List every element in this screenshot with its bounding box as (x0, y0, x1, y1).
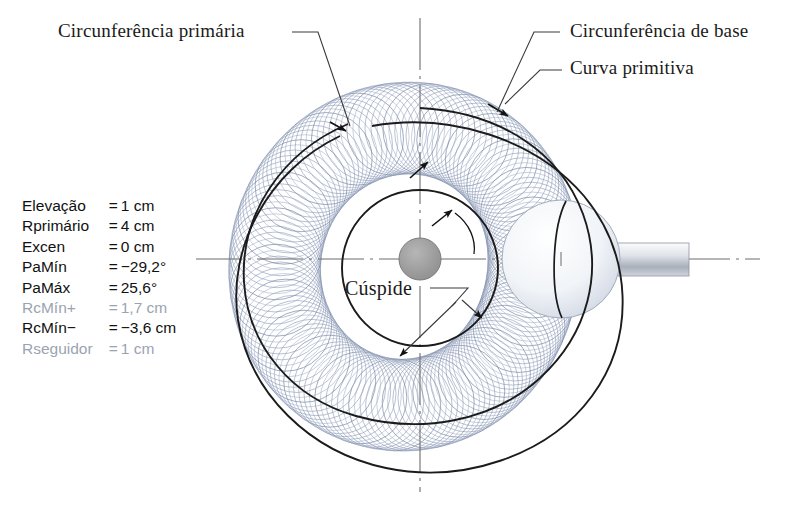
roller-circle (306, 96, 398, 188)
label-base-circle: Circunferência de base (570, 20, 748, 42)
parameter-equals: = (109, 339, 121, 359)
parameter-row: RcMín−=−3,6 cm (22, 318, 176, 338)
follower-stem (617, 243, 689, 276)
roller-circle (323, 89, 415, 181)
parameter-list: Elevação=1 cmRprimário=4 cmExcen=0 cmPaM… (22, 196, 176, 359)
label-pitch-curve: Curva primitiva (570, 57, 694, 79)
parameter-label: Excen (22, 237, 109, 257)
roller-circle (230, 208, 322, 300)
parameter-value: 4 cm (121, 216, 177, 236)
parameter-row: Rprimário=4 cm (22, 216, 176, 236)
parameter-equals: = (109, 216, 121, 236)
parameter-row: RcMín+=1,7 cm (22, 298, 176, 318)
cam-hub (399, 238, 441, 280)
roller-circle (347, 83, 439, 175)
label-primary-circle: Circunferência primária (58, 20, 245, 42)
leader-base-circle (497, 32, 560, 112)
diagram-canvas: Circunferência primária Circunferência d… (0, 0, 787, 509)
parameter-label: Rseguidor (22, 339, 109, 359)
parameter-equals: = (109, 237, 121, 257)
parameter-value: 1 cm (121, 196, 177, 216)
parameter-value: 1,7 cm (121, 298, 177, 318)
roller-circle (337, 358, 429, 450)
roller-circle (398, 352, 490, 444)
parameter-label: Elevação (22, 196, 109, 216)
roller-circle (377, 83, 469, 175)
parameter-row: Elevação=1 cm (22, 196, 176, 216)
parameter-equals: = (109, 257, 121, 277)
parameter-value: −29,2° (121, 257, 177, 277)
parameter-value: −3,6 cm (121, 318, 177, 338)
parameter-table: Elevação=1 cmRprimário=4 cmExcen=0 cmPaM… (22, 196, 176, 359)
parameter-row: Rseguidor=1 cm (22, 339, 176, 359)
parameter-value: 1 cm (121, 339, 177, 359)
parameter-equals: = (109, 318, 121, 338)
parameter-row: PaMáx=25,6° (22, 278, 176, 298)
parameter-equals: = (109, 298, 121, 318)
roller-circle (400, 88, 492, 180)
parameter-row: PaMín=−29,2° (22, 257, 176, 277)
leader-primary-circle (292, 32, 350, 126)
parameter-value: 25,6° (121, 278, 177, 298)
parameter-label: RcMín− (22, 318, 109, 338)
parameter-label: Rprimário (22, 216, 109, 236)
follower-assembly (502, 200, 689, 318)
parameter-label: RcMín+ (22, 298, 109, 318)
parameter-equals: = (109, 196, 121, 216)
roller-circle (353, 83, 445, 175)
roller-circle (299, 345, 391, 437)
parameter-value: 0 cm (121, 237, 177, 257)
label-cuspide: Cúspide (345, 277, 412, 300)
parameter-label: PaMáx (22, 278, 109, 298)
roller-circle (341, 84, 433, 176)
parameter-label: PaMín (22, 257, 109, 277)
parameter-equals: = (109, 278, 121, 298)
parameter-row: Excen=0 cm (22, 237, 176, 257)
roller-circle (388, 355, 480, 447)
